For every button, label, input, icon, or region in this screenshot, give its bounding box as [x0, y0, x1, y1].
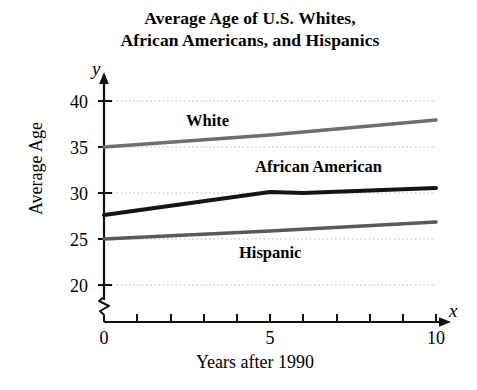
y-tick-label-40: 40	[44, 92, 88, 113]
series-line-hispanic	[104, 222, 436, 239]
x-axis-arrowhead	[439, 317, 451, 327]
series-label-african-american: African American	[255, 157, 382, 177]
y-tick-label-35: 35	[44, 138, 88, 159]
y-tick-label-30: 30	[44, 184, 88, 205]
y-tick-label-20: 20	[44, 276, 88, 297]
x-tick-label-0: 0	[87, 328, 121, 349]
y-tick-label-25: 25	[44, 230, 88, 251]
series-label-hispanic: Hispanic	[239, 243, 301, 263]
series-label-white: White	[186, 111, 229, 131]
x-axis-ticks	[104, 314, 436, 322]
x-tick-label-10: 10	[419, 328, 453, 349]
chart-figure: Average Age of U.S. Whites, African Amer…	[0, 0, 477, 390]
series-line-african-american	[104, 188, 436, 215]
y-axis-arrowhead	[99, 72, 109, 84]
series-line-white	[104, 120, 436, 147]
x-tick-label-5: 5	[253, 328, 287, 349]
